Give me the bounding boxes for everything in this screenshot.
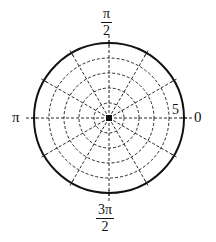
angle-label-half-pi-denominator: 2	[101, 23, 112, 38]
radial-line-30deg	[109, 81, 174, 119]
angle-label-three-half-pi-denominator: 2	[96, 219, 114, 234]
angle-label-pi: π	[12, 110, 20, 125]
radial-line-300deg	[109, 118, 147, 183]
radial-line-210deg	[44, 118, 109, 156]
radius-label-five: 5	[172, 103, 179, 117]
radial-line-150deg	[44, 81, 109, 119]
radial-line-60deg	[109, 53, 147, 118]
radial-line-240deg	[72, 118, 110, 183]
angle-label-half-pi-numerator: π	[101, 7, 112, 23]
origin-marker	[106, 115, 112, 121]
radial-line-120deg	[72, 53, 110, 118]
angle-label-zero: 0	[194, 110, 202, 125]
angle-label-three-half-pi: 3π 2	[96, 203, 114, 234]
angle-label-three-half-pi-numerator: 3π	[96, 203, 114, 219]
angle-label-half-pi: π 2	[101, 7, 112, 38]
radial-line-330deg	[109, 118, 174, 156]
